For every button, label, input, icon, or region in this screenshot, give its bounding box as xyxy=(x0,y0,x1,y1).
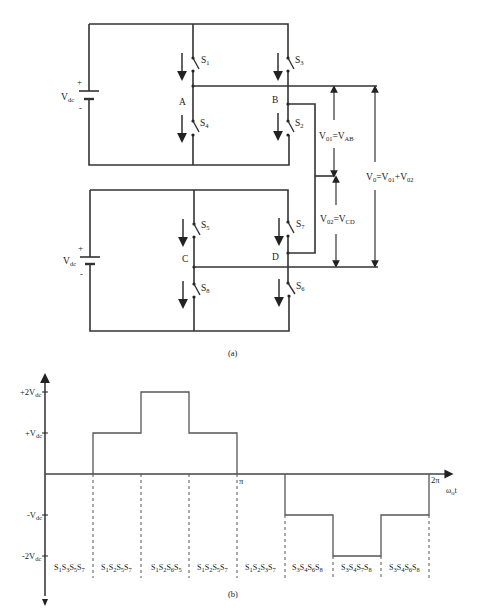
svg-text:S3: S3 xyxy=(295,55,304,66)
state-label: S1S3S5S7 xyxy=(54,563,86,573)
v0-indicator: V0=V01+V02 xyxy=(366,89,414,264)
node-a-label: A xyxy=(179,97,186,107)
switch-s5: S5 xyxy=(183,219,210,242)
svg-text:S7: S7 xyxy=(296,219,305,230)
svg-text:V02=VCD: V02=VCD xyxy=(320,214,355,225)
caption-b: (b) xyxy=(228,589,238,599)
svg-text:S4: S4 xyxy=(200,118,209,129)
state-label: S3S4S6S8 xyxy=(292,563,323,573)
circuit-diagram: + - Vdc S1 A S4 xyxy=(61,24,414,358)
v01-indicator: V01=VAB xyxy=(319,89,354,174)
svg-text:Vdc: Vdc xyxy=(63,256,76,267)
state-label: S3S4S7S8 xyxy=(341,563,372,573)
svg-text:S5: S5 xyxy=(201,220,210,231)
bottom-h-bridge: + - Vdc S5 C S8 S7 xyxy=(63,190,378,331)
plus-sign: + xyxy=(77,77,82,87)
y-tick-label: +2Vdc xyxy=(20,387,41,398)
top-h-bridge: + - Vdc S1 A S4 xyxy=(61,24,377,165)
svg-text:+: + xyxy=(78,243,83,253)
dc-source-top: + - Vdc xyxy=(61,77,99,113)
x-axis-label: ωot xyxy=(446,486,458,496)
x-tick-pi: π xyxy=(239,476,244,486)
x-tick-2pi: 2π xyxy=(431,475,440,485)
node-d-label: D xyxy=(272,252,279,262)
switch-s6: S6 xyxy=(279,279,305,302)
svg-text:Vdc: Vdc xyxy=(61,92,74,103)
y-axis-down-arrow-icon xyxy=(42,599,48,606)
dc-source-bottom: + - Vdc xyxy=(63,243,100,279)
figure-canvas: + - Vdc S1 A S4 xyxy=(0,0,477,614)
state-label: S1S2S6S5 xyxy=(151,563,182,573)
state-label: S1S2S5S7 xyxy=(101,563,133,573)
svg-text:S2: S2 xyxy=(295,118,304,129)
y-tick-label: -Vdc xyxy=(27,510,42,521)
state-label: S1S2S3S7 xyxy=(245,563,277,573)
switch-s7: S7 xyxy=(279,218,305,241)
switch-s8: S8 xyxy=(183,281,210,304)
svg-text:S6: S6 xyxy=(296,281,305,292)
y-tick-label: -2Vdc xyxy=(22,551,41,562)
y-ticks: +2Vdc +Vdc -Vdc -2Vdc xyxy=(20,387,48,562)
node-c-label: C xyxy=(182,254,188,264)
caption-a: (a) xyxy=(228,348,238,358)
minus-sign: - xyxy=(79,103,82,113)
svg-text:S1: S1 xyxy=(201,55,210,66)
svg-text:V01=VAB: V01=VAB xyxy=(319,131,354,142)
svg-text:S8: S8 xyxy=(201,283,210,294)
switch-s3: S3 xyxy=(278,53,304,76)
state-label: S1S2S5S7 xyxy=(197,563,229,573)
state-label: S3S4S6S8 xyxy=(389,563,420,573)
waveform-chart: +2Vdc +Vdc -Vdc -2Vdc π 2π ωot S1S3S5S7 … xyxy=(20,378,458,606)
v02-indicator: V02=VCD xyxy=(320,179,355,264)
switch-s1: S1 xyxy=(182,53,210,76)
svg-text:-: - xyxy=(80,269,83,279)
svg-text:V0=V01+V02: V0=V01+V02 xyxy=(366,172,414,183)
y-tick-label: +Vdc xyxy=(25,428,42,439)
switch-s2: S2 xyxy=(278,113,304,137)
node-b-label: B xyxy=(272,95,278,105)
switch-s4: S4 xyxy=(182,115,209,138)
